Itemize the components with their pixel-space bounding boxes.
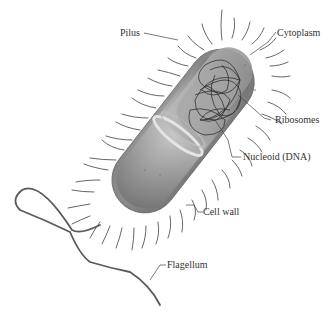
label-pilus: Pilus [120,28,140,38]
bacterium-diagram: Pilus Cytoplasm Ribosomes Nucleoid (DNA)… [0,0,335,332]
label-flagellum: Flagellum [167,260,208,270]
label-cytoplasm: Cytoplasm [277,28,320,38]
label-ribosomes: Ribosomes [275,115,319,125]
label-cell-wall: Cell wall [203,207,239,217]
label-nucleoid: Nucleoid (DNA) [243,152,310,162]
cell-body [99,33,270,227]
